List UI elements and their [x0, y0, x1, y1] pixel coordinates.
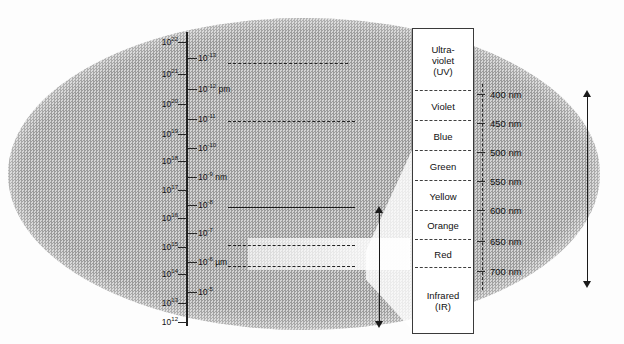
wavelength-label: 10-13 [198, 54, 216, 63]
axis-tick-left [178, 218, 187, 219]
wavelength-tick [477, 123, 485, 124]
axis-tick-left [178, 161, 187, 162]
frequency-label-text: 1019 [162, 130, 178, 139]
frequency-label-text: 1017 [162, 186, 178, 195]
xray-uv-divider [228, 207, 355, 208]
frequency-label-text: 1015 [162, 243, 178, 252]
wavelength-label: 10-7 [198, 229, 213, 238]
frequency-label-text: 1018 [162, 157, 178, 166]
axis-tick-left [178, 104, 187, 105]
wavelength-label: 10-11 [198, 115, 216, 124]
axis-tick-right [188, 292, 197, 293]
axis-tick-left [178, 190, 187, 191]
axis-tick-left [178, 247, 187, 248]
wavelength-scale-line [482, 84, 483, 290]
color-band-label: Green [430, 161, 456, 172]
axis-tick-left [178, 303, 187, 304]
wavelength-tick-label: 600 nm [490, 205, 522, 216]
axis-tick-left [178, 134, 187, 135]
axis-tick-right [188, 58, 197, 59]
wavelength-tick-label: 550 nm [490, 176, 522, 187]
frequency-label-text: 1012 [162, 318, 178, 327]
wavelength-tick-label: 650 nm [490, 236, 522, 247]
frequency-axis-line [186, 32, 188, 326]
wavelength-tick-label: 400 nm [490, 89, 522, 100]
axis-tick-right [188, 205, 197, 206]
wavelength-tick [477, 94, 485, 95]
em-spectrum-figure: 1022102110201019101810171016101510141013… [0, 0, 624, 344]
color-band-row: Green [413, 151, 473, 181]
wavelength-tick [477, 152, 485, 153]
color-band-label: Violet [431, 101, 455, 112]
color-band-row: Violet [413, 91, 473, 121]
photometry-arrow [583, 90, 592, 288]
wavelength-tick-label: 450 nm [490, 118, 522, 129]
axis-tick-right [188, 119, 197, 120]
axis-tick-right [188, 233, 197, 234]
wavelength-label: 10-9 nm [198, 173, 227, 182]
frequency-label-text: 1021 [162, 70, 178, 79]
color-band-label: Infrared(IR) [427, 290, 460, 312]
wavelength-label: 10-8 [198, 201, 213, 210]
frequency-label-text: 1022 [162, 38, 178, 47]
uv-visible-divider [228, 245, 355, 246]
color-band-row: Infrared(IR) [413, 268, 473, 333]
frequency-label-text: 1014 [162, 270, 178, 279]
color-band-row: Ultra-violet(UV) [413, 29, 473, 91]
axis-tick-right [188, 177, 197, 178]
color-band-row: Blue [413, 121, 473, 151]
wavelength-tick-label: 500 nm [490, 147, 522, 158]
axis-tick-right [188, 89, 197, 90]
frequency-label-text: 1016 [162, 214, 178, 223]
axis-tick-left [178, 74, 187, 75]
spectrum-blob-highlight [8, 18, 600, 330]
visible-ir-divider [228, 266, 355, 267]
axis-tick-left [178, 274, 187, 275]
wavelength-tick [477, 271, 485, 272]
wavelength-tick-label: 700 nm [490, 266, 522, 277]
wavelength-tick [477, 241, 485, 242]
frequency-label-text: 1020 [162, 100, 178, 109]
axis-tick-right [188, 148, 197, 149]
wavelength-tick [477, 181, 485, 182]
gamma-xray-divider [228, 121, 355, 122]
color-band-label: Ultra-violet(UV) [431, 44, 454, 77]
cosmic-gamma-divider [228, 63, 348, 64]
wavelength-label: 10-6 µm [198, 258, 227, 267]
axis-tick-left [178, 42, 187, 43]
wavelength-label: 10-12 pm [198, 85, 230, 94]
color-band-label: Yellow [429, 191, 456, 202]
color-band-label: Red [434, 249, 451, 260]
color-band-row: Red [413, 240, 473, 268]
color-band-label: Blue [433, 131, 452, 142]
visible-spectrum-table: Ultra-violet(UV)VioletBlueGreenYellowOra… [412, 28, 474, 334]
wavelength-tick [477, 210, 485, 211]
color-band-row: Orange [413, 211, 473, 240]
color-band-row: Yellow [413, 181, 473, 211]
axis-tick-right [188, 262, 197, 263]
color-band-label: Orange [427, 220, 459, 231]
radiometry-arrow [375, 206, 384, 328]
frequency-label-text: 1013 [162, 299, 178, 308]
wavelength-label: 10-10 [198, 144, 216, 153]
axis-tick-left [178, 322, 187, 323]
wavelength-label: 10-5 [198, 288, 213, 297]
